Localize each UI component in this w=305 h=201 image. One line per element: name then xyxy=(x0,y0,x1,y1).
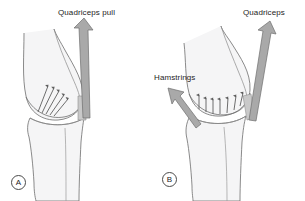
figure-knee-force-vectors: Quadriceps pull Quadriceps Hamstrings A … xyxy=(0,0,305,201)
tibia-outline-a xyxy=(28,118,84,201)
label-hamstrings: Hamstrings xyxy=(154,74,195,82)
anatomy-illustration xyxy=(0,0,305,201)
femur-outline-b xyxy=(184,26,250,116)
label-quadriceps: Quadriceps xyxy=(243,9,285,17)
tibia-outline-b xyxy=(186,116,246,201)
panel-badge-a: A xyxy=(11,175,26,190)
panel-a-anatomy xyxy=(24,18,94,201)
panel-b-anatomy xyxy=(168,21,276,201)
panel-badge-b: B xyxy=(162,172,177,187)
quadriceps-arrow xyxy=(249,21,276,121)
label-quadriceps-pull: Quadriceps pull xyxy=(58,9,115,17)
